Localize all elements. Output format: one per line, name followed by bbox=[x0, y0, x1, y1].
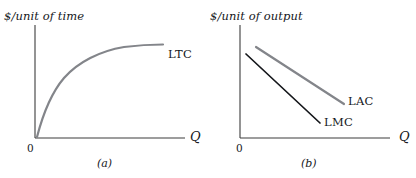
panel-a-x-axis-title: Q bbox=[190, 130, 201, 143]
ltc-curve-label: LTC bbox=[168, 49, 192, 61]
panel-b-caption: (b) bbox=[301, 158, 317, 169]
panel-b: $/unit of output LAC LMC Q 0 (b) bbox=[208, 0, 416, 178]
panel-b-x-axis-title: Q bbox=[399, 130, 410, 143]
economics-cost-figure: $/unit of time LTC Q 0 (a) $/unit of out… bbox=[0, 0, 416, 178]
lmc-curve-label: LMC bbox=[324, 117, 353, 129]
lac-curve-label: LAC bbox=[348, 96, 374, 108]
panel-a: $/unit of time LTC Q 0 (a) bbox=[0, 0, 208, 178]
panel-a-origin-label: 0 bbox=[27, 143, 34, 154]
panel-a-y-axis-title: $/unit of time bbox=[4, 11, 84, 23]
ltc-curve bbox=[37, 45, 163, 138]
panel-a-caption: (a) bbox=[97, 158, 112, 169]
panel-b-origin-label: 0 bbox=[236, 143, 243, 154]
panel-b-y-axis-title: $/unit of output bbox=[210, 11, 303, 23]
